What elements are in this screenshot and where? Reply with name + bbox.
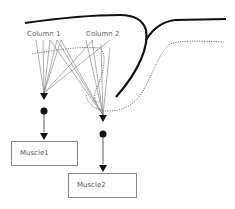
- neuron-node-1: [41, 108, 48, 115]
- pathway-arrowhead-2: [99, 165, 107, 172]
- convergence-arrow-1: [40, 93, 48, 100]
- column2-label: Column 2: [86, 30, 120, 38]
- cortex-surface-line-right: [146, 19, 226, 40]
- convergence-arrow-2: [99, 115, 107, 122]
- muscle1-box: Muscle1: [11, 141, 78, 166]
- pathway-arrowhead-1: [40, 133, 48, 140]
- column1-label: Column 1: [27, 30, 61, 38]
- muscle1-label: Muscle1: [20, 149, 49, 157]
- muscle2-box: Muscle2: [68, 173, 137, 198]
- neuron-node-2: [100, 131, 107, 138]
- muscle2-label: Muscle2: [77, 181, 106, 189]
- dotted-boundary-right: [86, 41, 224, 111]
